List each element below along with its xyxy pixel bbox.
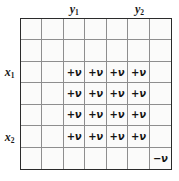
matrix-cell-empty xyxy=(21,126,42,147)
matrix-cell-empty xyxy=(21,40,42,61)
matrix-cell-empty xyxy=(64,19,85,40)
nu-glyph: ν xyxy=(96,109,103,120)
sign-glyph: + xyxy=(110,109,118,120)
column-label-y2: y2 xyxy=(118,1,161,17)
sign-glyph: + xyxy=(110,131,118,142)
matrix-cell-empty xyxy=(150,83,171,104)
nu-glyph: ν xyxy=(139,131,146,142)
sign-glyph: + xyxy=(88,109,96,120)
sign-glyph: + xyxy=(88,88,96,99)
matrix-cell-filled: +ν xyxy=(85,126,106,147)
matrix-cell-filled: +ν xyxy=(128,62,149,83)
grid-diagram: y1y2 x1x2 +ν+ν+ν+ν+ν+ν+ν+ν+ν+ν+ν+ν+ν+ν+ν… xyxy=(0,0,179,181)
matrix-cell-empty xyxy=(21,62,42,83)
label-subscript: 2 xyxy=(11,136,15,145)
matrix-cell-empty xyxy=(21,19,42,40)
row-label-x2: x2 xyxy=(1,129,18,145)
matrix-cell-filled: +ν xyxy=(128,83,149,104)
sign-glyph: + xyxy=(110,88,118,99)
matrix-cell-filled: +ν xyxy=(85,83,106,104)
matrix-cell-empty xyxy=(42,105,63,126)
matrix-cell-empty xyxy=(107,40,128,61)
matrix-cell-empty xyxy=(128,19,149,40)
matrix-cell-empty xyxy=(21,148,42,169)
matrix-cell-filled: +ν xyxy=(128,105,149,126)
sign-glyph: − xyxy=(153,153,161,164)
matrix-grid: +ν+ν+ν+ν+ν+ν+ν+ν+ν+ν+ν+ν+ν+ν+ν+ν−ν xyxy=(20,18,172,170)
label-subscript: 1 xyxy=(11,71,15,80)
nu-glyph: ν xyxy=(118,131,125,142)
nu-glyph: ν xyxy=(75,109,82,120)
sign-glyph: + xyxy=(131,88,139,99)
column-label-y1: y1 xyxy=(53,1,96,17)
matrix-cell-empty xyxy=(64,148,85,169)
matrix-cell-filled: +ν xyxy=(107,83,128,104)
label-subscript: 1 xyxy=(75,8,79,17)
matrix-cell-empty xyxy=(128,148,149,169)
sign-glyph: + xyxy=(88,67,96,78)
nu-glyph: ν xyxy=(118,109,125,120)
matrix-cell-empty xyxy=(42,148,63,169)
label-subscript: 2 xyxy=(140,8,144,17)
matrix-cell-empty xyxy=(107,19,128,40)
nu-glyph: ν xyxy=(139,109,146,120)
matrix-cell-empty xyxy=(42,40,63,61)
matrix-cell-filled: +ν xyxy=(64,62,85,83)
nu-glyph: ν xyxy=(118,88,125,99)
matrix-cell-empty xyxy=(128,40,149,61)
matrix-cell-empty xyxy=(150,105,171,126)
matrix-cell-empty xyxy=(85,148,106,169)
matrix-cell-empty xyxy=(85,40,106,61)
sign-glyph: + xyxy=(131,67,139,78)
matrix-cell-empty xyxy=(150,40,171,61)
sign-glyph: + xyxy=(131,131,139,142)
sign-glyph: + xyxy=(67,109,75,120)
matrix-cell-filled: +ν xyxy=(64,105,85,126)
nu-glyph: ν xyxy=(75,67,82,78)
matrix-cell-empty xyxy=(42,83,63,104)
nu-glyph: ν xyxy=(139,67,146,78)
matrix-cell-filled: +ν xyxy=(107,105,128,126)
nu-glyph: ν xyxy=(161,153,168,164)
sign-glyph: + xyxy=(67,88,75,99)
matrix-cell-filled: +ν xyxy=(128,126,149,147)
matrix-cell-empty xyxy=(64,40,85,61)
matrix-cell-empty xyxy=(107,148,128,169)
matrix-cell-filled: +ν xyxy=(107,62,128,83)
sign-glyph: + xyxy=(110,67,118,78)
sign-glyph: + xyxy=(88,131,96,142)
matrix-cell-empty xyxy=(42,19,63,40)
nu-glyph: ν xyxy=(75,88,82,99)
nu-glyph: ν xyxy=(75,131,82,142)
matrix-cell-empty xyxy=(42,62,63,83)
nu-glyph: ν xyxy=(96,67,103,78)
matrix-cell-filled: +ν xyxy=(64,126,85,147)
matrix-cell-filled: +ν xyxy=(107,126,128,147)
label-base: x xyxy=(5,130,11,144)
row-label-x1: x1 xyxy=(1,64,18,80)
matrix-cell-empty xyxy=(21,105,42,126)
nu-glyph: ν xyxy=(118,67,125,78)
sign-glyph: + xyxy=(67,131,75,142)
nu-glyph: ν xyxy=(96,131,103,142)
matrix-cell-empty xyxy=(150,126,171,147)
matrix-cell-empty xyxy=(150,62,171,83)
sign-glyph: + xyxy=(67,67,75,78)
matrix-cell-filled: −ν xyxy=(150,148,171,169)
matrix-cell-empty xyxy=(21,83,42,104)
matrix-cell-empty xyxy=(150,19,171,40)
label-base: x xyxy=(5,65,11,79)
matrix-cell-empty xyxy=(42,126,63,147)
matrix-cell-filled: +ν xyxy=(85,62,106,83)
matrix-cell-empty xyxy=(85,19,106,40)
nu-glyph: ν xyxy=(96,88,103,99)
matrix-cell-filled: +ν xyxy=(64,83,85,104)
matrix-cell-filled: +ν xyxy=(85,105,106,126)
sign-glyph: + xyxy=(131,109,139,120)
nu-glyph: ν xyxy=(139,88,146,99)
